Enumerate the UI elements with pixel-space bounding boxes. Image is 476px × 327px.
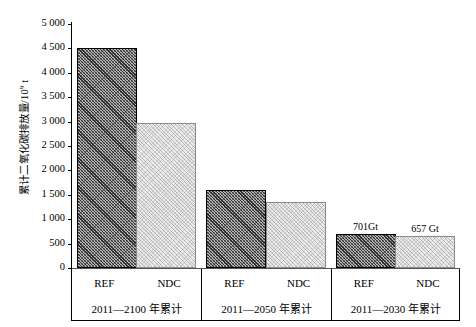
y-axis-title-exponent: 9 — [18, 86, 26, 90]
series-label-ref: REF — [72, 271, 137, 295]
bar-chart: 累计二氧化碳排放量/109 t 5 0004 5004 0003 5003 00… — [0, 0, 476, 327]
bar-value-label: 701Gt — [353, 221, 378, 232]
bar-ref-3: 701Gt — [336, 234, 396, 268]
bar-ref-2 — [206, 190, 266, 268]
y-axis-tick-label: 3 500 — [41, 90, 65, 101]
category-label-table: REFNDC2011—2100 年累计REFNDC2011—2050 年累计RE… — [71, 269, 460, 321]
category-group-3: REFNDC2011—2030 年累计 — [331, 269, 460, 320]
y-axis-tick-label: 4 000 — [41, 66, 65, 77]
y-axis-tick-mark — [68, 48, 72, 49]
category-group-2: REFNDC2011—2050 年累计 — [201, 269, 330, 320]
period-label: 2011—2030 年累计 — [332, 295, 460, 320]
y-axis-tick-mark — [68, 244, 72, 245]
series-label-ndc: NDC — [267, 271, 331, 295]
y-axis-tick-mark — [68, 73, 72, 74]
y-axis-tick-label: 3 000 — [41, 115, 65, 126]
series-label-ref: REF — [332, 271, 396, 295]
y-axis-title-unit: t — [20, 80, 31, 86]
y-axis-tick-mark — [68, 195, 72, 196]
series-label-row: REFNDC — [72, 271, 201, 295]
y-axis-tick-label: 500 — [49, 237, 65, 248]
y-axis-tick-mark — [68, 24, 72, 25]
plot-area: 5 0004 5004 0003 5003 0002 5002 0001 500… — [72, 24, 460, 268]
y-axis-title-main: 累计二氧化碳排放量/10 — [20, 89, 31, 195]
period-label: 2011—2100 年累计 — [72, 295, 201, 320]
y-axis-title-text: 累计二氧化碳排放量/109 t — [21, 80, 32, 195]
y-axis-tick-mark — [68, 219, 72, 220]
bar-ndc-1 — [136, 123, 196, 268]
series-label-row: REFNDC — [202, 271, 330, 295]
y-axis-title: 累计二氧化碳排放量/109 t — [12, 0, 40, 275]
series-label-ndc: NDC — [396, 271, 460, 295]
bar-ndc-3: 657 Gt — [395, 236, 455, 268]
bar-ref-1 — [77, 48, 137, 268]
series-label-row: REFNDC — [332, 271, 460, 295]
y-axis-tick-label: 1 500 — [41, 188, 65, 199]
y-axis-tick-label: 4 500 — [41, 41, 65, 52]
period-label: 2011—2050 年累计 — [202, 295, 330, 320]
y-axis-tick-mark — [68, 122, 72, 123]
y-axis-tick-label: 1 000 — [41, 212, 65, 223]
y-axis-tick-mark — [68, 97, 72, 98]
y-axis-tick-mark — [68, 170, 72, 171]
y-axis-tick-label: 2 500 — [41, 139, 65, 150]
y-axis-tick-label: 5 000 — [41, 17, 65, 28]
y-axis-tick-label: 2 000 — [41, 163, 65, 174]
bar-ndc-2 — [266, 202, 326, 268]
series-label-ref: REF — [202, 271, 266, 295]
y-axis-tick-mark — [68, 146, 72, 147]
bar-value-label: 657 Gt — [411, 223, 439, 234]
category-group-1: REFNDC2011—2100 年累计 — [72, 269, 201, 320]
series-label-ndc: NDC — [137, 271, 202, 295]
y-axis-tick-label: 0 — [60, 261, 65, 272]
